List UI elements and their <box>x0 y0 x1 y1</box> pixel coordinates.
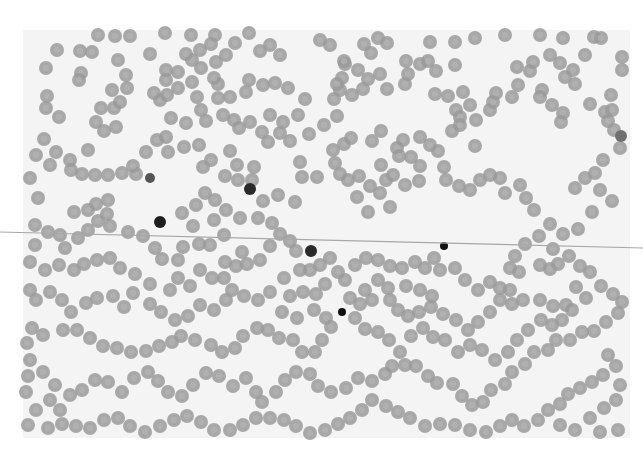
cell-center <box>95 32 101 38</box>
cell-center <box>83 300 89 306</box>
cell-center <box>260 198 266 204</box>
cell-center <box>314 174 320 180</box>
cell-center <box>472 143 478 149</box>
cell-center <box>293 248 299 254</box>
cell-center <box>40 332 46 338</box>
cell-center <box>352 262 358 268</box>
cell-center <box>531 207 537 213</box>
cell-center <box>29 325 35 331</box>
cell-center <box>598 35 604 41</box>
cell-center <box>531 349 537 355</box>
cell-center <box>62 245 68 251</box>
cell-center <box>515 82 521 88</box>
cell-center <box>163 134 169 140</box>
cell-center <box>619 67 625 73</box>
cell-center <box>547 221 553 227</box>
cell-center <box>59 297 65 303</box>
cell-center <box>110 293 116 299</box>
cell-center <box>202 190 208 196</box>
cell-center <box>609 107 615 113</box>
cell-center <box>85 227 91 233</box>
cell-center <box>327 42 333 48</box>
cell-center <box>605 352 611 358</box>
cell-center <box>348 135 354 141</box>
cell-center <box>334 81 340 87</box>
cell-center <box>601 405 607 411</box>
cell-center <box>179 393 185 399</box>
cell-center <box>190 223 196 229</box>
cell-center <box>387 297 393 303</box>
cell-center <box>287 293 293 299</box>
cell-center <box>407 415 413 421</box>
cell-center <box>582 175 588 181</box>
cell-center <box>321 122 327 128</box>
cell-center <box>24 340 30 346</box>
cell-center <box>187 283 193 289</box>
cell-center <box>114 345 120 351</box>
cell-center <box>196 142 202 148</box>
cell-center <box>413 363 419 369</box>
cell-center <box>307 267 313 273</box>
cell-center <box>27 287 33 293</box>
cell-center <box>502 381 508 387</box>
cell-center <box>164 92 170 98</box>
cell-center <box>209 275 215 281</box>
cell-center <box>369 378 375 384</box>
cell-center <box>617 382 623 388</box>
cell-center <box>243 375 249 381</box>
cell-center <box>408 154 414 160</box>
cell-center <box>483 429 489 435</box>
cell-center <box>337 171 343 177</box>
cell-center <box>412 259 418 265</box>
cell-center <box>211 217 217 223</box>
cell-center <box>402 182 408 188</box>
cell-center <box>319 337 325 343</box>
cell-center <box>223 207 229 213</box>
cell-center <box>598 283 604 289</box>
cell-center <box>497 175 503 181</box>
cell-center <box>557 401 563 407</box>
cell-center <box>475 287 481 293</box>
cell-center <box>369 297 375 303</box>
cell-center <box>430 334 436 340</box>
cell-center <box>54 47 60 53</box>
cell-center <box>79 387 85 393</box>
cell-center <box>577 263 583 269</box>
cell-center <box>619 54 625 60</box>
cell-center <box>429 293 435 299</box>
cell-center <box>211 75 217 81</box>
cell-center <box>455 349 461 355</box>
cell-center <box>600 372 606 378</box>
cell-center <box>131 375 137 381</box>
cell-center <box>509 369 515 375</box>
cell-center <box>295 112 301 118</box>
cell-center <box>272 80 278 86</box>
cell-center <box>362 287 368 293</box>
cell-center <box>219 349 225 355</box>
cell-center <box>23 389 29 395</box>
cell-center <box>307 371 313 377</box>
cell-center <box>507 287 513 293</box>
cell-center <box>302 96 308 102</box>
cell-center <box>402 362 408 368</box>
cell-center <box>487 172 493 178</box>
cell-center <box>617 145 623 151</box>
cell-center <box>124 85 130 91</box>
cell-center <box>417 287 423 293</box>
cell-center <box>555 261 561 267</box>
cell-center <box>254 325 260 331</box>
cell-center <box>357 301 363 307</box>
cell-center <box>203 118 209 124</box>
cell-center <box>560 35 566 41</box>
cell-center <box>395 409 401 415</box>
micrograph-image <box>0 0 643 451</box>
cell-center <box>32 222 38 228</box>
cell-center <box>42 267 48 273</box>
cell-center <box>442 337 448 343</box>
cell-center <box>547 52 553 58</box>
cell-center <box>520 297 526 303</box>
cell-center <box>331 96 337 102</box>
cell-center <box>43 65 49 71</box>
cell-center <box>360 86 366 92</box>
cell-center <box>608 92 614 98</box>
